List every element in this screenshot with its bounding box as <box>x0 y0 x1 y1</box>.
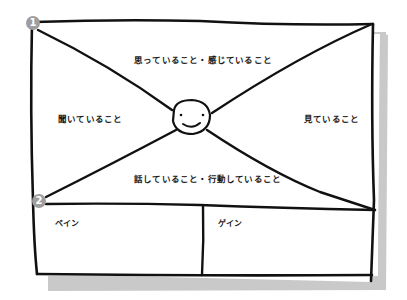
smiley-face-icon <box>173 100 210 134</box>
quadrant-label-say-do: 話していること・行動していること <box>134 172 281 184</box>
step-badge-2: 2 <box>32 194 46 208</box>
quadrant-label-see: 見ていること <box>304 112 359 124</box>
shadow-right <box>378 33 388 290</box>
gain-label: ゲイン <box>218 217 243 228</box>
pain-label: ペイン <box>55 217 80 228</box>
quadrant-label-think-feel: 思っていること・感じていること <box>134 53 272 65</box>
step-badge-1: 1 <box>26 16 40 30</box>
frame-bottom <box>37 274 372 275</box>
pain-gain-vertical-divider <box>202 206 203 275</box>
frame-right <box>371 24 374 281</box>
quadrant-label-hear: 聞いていること <box>58 112 122 124</box>
empathy-map-drawing <box>0 0 407 300</box>
